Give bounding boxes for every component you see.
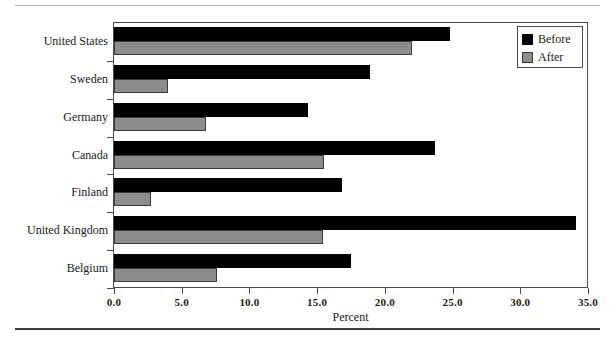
x-axis-tick-label: 25.0 [428,296,478,308]
x-axis-tick-label: 10.0 [224,296,274,308]
x-axis-tick [317,288,318,294]
x-axis-tick [114,288,115,294]
category-label: United States [0,35,108,47]
y-axis-tick [107,99,114,100]
bar-group [114,216,588,244]
legend-label-after: After [538,51,563,63]
category-label: United Kingdom [0,224,108,236]
bar-before [114,178,342,192]
category-label: Finland [0,186,108,198]
x-axis-tick [385,288,386,294]
category-label: Germany [0,111,108,123]
x-axis-tick-label: 30.0 [495,296,545,308]
bar-before [114,103,308,117]
bar-after [114,41,412,55]
y-axis-tick [107,61,114,62]
gray-square-icon [522,52,533,63]
y-axis-tick [107,137,114,138]
bar-after [114,230,323,244]
bar-group [114,254,588,282]
bar-chart-figure: United StatesSwedenGermanyCanadaFinlandU… [0,0,613,344]
x-axis-tick [182,288,183,294]
y-axis-tick [107,212,114,213]
bar-after [114,117,206,131]
category-label: Canada [0,149,108,161]
bar-group [114,65,588,93]
bar-after [114,79,168,93]
x-axis-tick-label: 20.0 [360,296,410,308]
bar-group [114,141,588,169]
x-axis-tick [520,288,521,294]
x-axis-tick [588,288,589,294]
category-axis: United StatesSwedenGermanyCanadaFinlandU… [0,22,108,288]
bar-group [114,103,588,131]
bar-before [114,65,370,79]
x-axis-tick-label: 5.0 [157,296,207,308]
bar-after [114,268,217,282]
bar-before [114,216,576,230]
bar-group [114,178,588,206]
bar-before [114,141,435,155]
top-divider-rule [15,5,600,6]
bar-after [114,192,151,206]
legend-item-after: After [522,48,578,66]
bar-before [114,27,450,41]
bar-after [114,155,324,169]
y-axis-tick [107,250,114,251]
black-square-icon [522,34,533,45]
bottom-divider-rule [15,328,600,330]
chart-legend: Before After [517,26,583,68]
y-axis-tick [107,174,114,175]
x-axis-tick [249,288,250,294]
category-label: Belgium [0,262,108,274]
x-axis-tick-label: 0.0 [89,296,139,308]
x-axis-tick-label: 35.0 [563,296,613,308]
bar-before [114,254,351,268]
x-axis-title: Percent [113,311,588,324]
x-axis-tick-label: 15.0 [292,296,342,308]
y-axis-tick [107,288,114,289]
category-label: Sweden [0,73,108,85]
x-axis-tick [453,288,454,294]
legend-label-before: Before [538,33,571,45]
legend-item-before: Before [522,30,578,48]
